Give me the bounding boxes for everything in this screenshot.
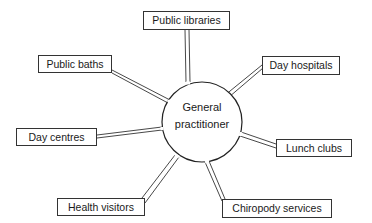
center-label-line2: practitioner <box>162 116 242 133</box>
node-chiropody-services: Chiropody services <box>222 199 332 218</box>
connector-lunch-clubs <box>240 132 276 148</box>
node-label: Public libraries <box>152 15 220 26</box>
node-label: Health visitors <box>68 202 134 213</box>
node-lunch-clubs: Lunch clubs <box>276 139 352 157</box>
general-practitioner-label: General practitioner <box>162 99 242 133</box>
node-label: Day centres <box>28 132 84 143</box>
node-day-centres: Day centres <box>16 128 97 146</box>
connector-chiropody-services <box>205 161 225 201</box>
center-label-line1: General <box>162 99 242 116</box>
node-public-baths: Public baths <box>38 55 112 73</box>
node-public-libraries: Public libraries <box>143 11 230 30</box>
connector-public-libraries <box>185 30 190 82</box>
node-label: Public baths <box>46 59 103 70</box>
node-day-hospitals: Day hospitals <box>262 56 340 75</box>
node-label: Lunch clubs <box>286 143 342 154</box>
node-label: Day hospitals <box>269 60 332 71</box>
node-health-visitors: Health visitors <box>57 198 145 216</box>
node-label: Chiropody services <box>232 203 321 214</box>
connector-day-centres <box>97 127 162 138</box>
connector-health-visitors <box>142 155 179 203</box>
